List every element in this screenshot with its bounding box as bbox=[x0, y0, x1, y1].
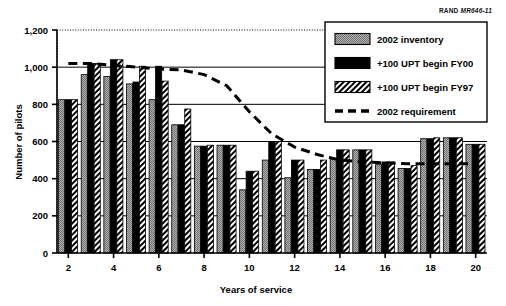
bar bbox=[314, 169, 320, 253]
bar bbox=[162, 81, 168, 253]
bar bbox=[194, 146, 200, 253]
bar bbox=[375, 165, 381, 253]
bar bbox=[88, 63, 94, 253]
bar bbox=[472, 144, 478, 253]
bar bbox=[110, 60, 116, 253]
x-tick-label: 2 bbox=[66, 262, 71, 273]
bar bbox=[427, 139, 433, 253]
legend-label: +100 UPT begin FY00 bbox=[377, 58, 473, 69]
y-tick-label: 1,000 bbox=[24, 62, 48, 73]
y-tick-label: 600 bbox=[32, 136, 48, 147]
bar bbox=[405, 168, 411, 253]
bar bbox=[291, 160, 297, 253]
y-tick-label: 0 bbox=[43, 248, 48, 259]
x-tick-label: 10 bbox=[244, 262, 255, 273]
bar bbox=[223, 145, 229, 253]
bar bbox=[149, 100, 155, 253]
chart-figure: RAND MR646-11 02004006008001,0001,200 24… bbox=[0, 0, 506, 306]
bar bbox=[366, 150, 372, 253]
bar bbox=[434, 138, 440, 253]
bar bbox=[337, 150, 343, 253]
rand-label: RAND bbox=[439, 7, 459, 14]
y-tick-label: 200 bbox=[32, 210, 48, 221]
bar bbox=[269, 142, 275, 254]
x-axis-ticks: 2468101214161820 bbox=[66, 253, 481, 273]
x-axis-title: Years of service bbox=[220, 284, 292, 295]
y-axis-ticks: 02004006008001,0001,200 bbox=[24, 25, 57, 259]
bar bbox=[343, 150, 349, 253]
bar bbox=[207, 145, 213, 253]
bar bbox=[466, 144, 472, 253]
x-tick-label: 8 bbox=[201, 262, 206, 273]
legend-label: 2002 requirement bbox=[377, 106, 457, 117]
bar bbox=[104, 76, 110, 253]
x-tick-label: 18 bbox=[425, 262, 436, 273]
bar bbox=[382, 162, 388, 253]
bar bbox=[156, 66, 162, 253]
bar bbox=[172, 125, 178, 253]
bar bbox=[65, 100, 71, 253]
y-tick-label: 800 bbox=[32, 99, 48, 110]
x-tick-label: 12 bbox=[289, 262, 300, 273]
bar bbox=[240, 190, 246, 253]
bar bbox=[72, 100, 78, 253]
y-axis-title: Number of pilots bbox=[13, 104, 24, 179]
bar bbox=[353, 150, 359, 253]
bar bbox=[330, 159, 336, 253]
rand-source-id: RAND MR646-11 bbox=[439, 7, 492, 14]
bar bbox=[246, 171, 252, 253]
x-tick-label: 20 bbox=[470, 262, 481, 273]
bar bbox=[443, 138, 449, 253]
bar bbox=[456, 138, 462, 253]
bar bbox=[359, 150, 365, 253]
bar bbox=[298, 160, 304, 253]
bar bbox=[285, 178, 291, 253]
bar bbox=[117, 60, 123, 253]
bar bbox=[59, 100, 65, 253]
bar bbox=[262, 160, 268, 253]
bar bbox=[275, 142, 281, 254]
rand-report-code: MR646-11 bbox=[461, 7, 492, 14]
bar bbox=[126, 84, 132, 253]
legend-label: +100 UPT begin FY97 bbox=[377, 82, 473, 93]
bar bbox=[308, 169, 314, 253]
legend-label: 2002 inventory bbox=[377, 34, 444, 45]
bar bbox=[217, 145, 223, 253]
bar bbox=[450, 138, 456, 253]
x-tick-label: 4 bbox=[111, 262, 117, 273]
legend-swatch-solid-black bbox=[335, 58, 370, 69]
legend-swatch-diagonal-hatch bbox=[335, 82, 370, 93]
bar bbox=[398, 168, 404, 253]
pilot-inventory-bar-chart: 02004006008001,0001,200 2468101214161820… bbox=[0, 0, 506, 306]
bar bbox=[185, 109, 191, 253]
bar bbox=[178, 125, 184, 253]
bar bbox=[139, 66, 145, 253]
bar bbox=[321, 160, 327, 253]
bar bbox=[253, 171, 259, 253]
x-tick-label: 16 bbox=[380, 262, 391, 273]
bar bbox=[388, 162, 394, 253]
bar bbox=[133, 82, 139, 253]
bar bbox=[94, 63, 100, 253]
bar bbox=[479, 144, 485, 253]
bar bbox=[421, 139, 427, 253]
y-tick-label: 1,200 bbox=[24, 25, 48, 36]
x-tick-label: 6 bbox=[156, 262, 161, 273]
x-tick-label: 14 bbox=[335, 262, 346, 273]
bar bbox=[411, 166, 417, 253]
bar bbox=[230, 145, 236, 253]
bar bbox=[81, 75, 87, 253]
chart-legend: 2002 inventory+100 UPT begin FY00+100 UP… bbox=[325, 22, 487, 122]
y-tick-label: 400 bbox=[32, 173, 48, 184]
legend-swatch-gray-stipple bbox=[335, 34, 370, 45]
bar bbox=[201, 146, 207, 253]
